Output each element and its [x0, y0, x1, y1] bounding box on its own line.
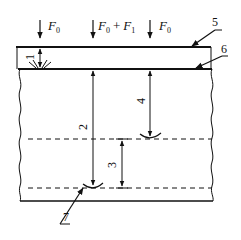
dimension-1: 1: [23, 49, 51, 68]
svg-text:5: 5: [212, 15, 218, 29]
svg-text:2: 2: [76, 124, 90, 130]
svg-text:1: 1: [23, 54, 37, 60]
svg-text:6: 6: [221, 42, 227, 56]
force-label-middle: F0+F1: [97, 18, 135, 35]
svg-text:7: 7: [63, 210, 69, 224]
svg-text:3: 3: [105, 162, 119, 168]
force-label-right: F0: [158, 18, 171, 35]
left-break-edge: [19, 69, 21, 201]
pressure-diagram: F0 F0+F1 F0 1 2 4 3 5 6 7: [0, 0, 241, 240]
force-label-left: F0: [47, 18, 60, 35]
dimension-4: 4: [134, 71, 150, 136]
leader-6: 6: [196, 42, 228, 68]
leader-5: 5: [192, 15, 222, 46]
svg-text:4: 4: [134, 98, 148, 104]
dimension-3: 3: [105, 139, 128, 188]
right-break-edge: [211, 69, 213, 201]
dimension-2: 2: [76, 71, 93, 185]
leader-7: 7: [60, 188, 83, 224]
top-plate: [16, 47, 211, 69]
